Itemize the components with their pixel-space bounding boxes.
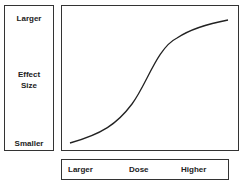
plot-area [61, 5, 239, 151]
y-axis-bottom-label: Smaller [5, 139, 53, 149]
y-axis-middle-label-2: Size [5, 81, 53, 91]
x-axis-label-box: Larger Dose Higher [61, 159, 229, 180]
dose-response-curve [62, 6, 238, 150]
x-axis-right-label: Higher [181, 165, 206, 175]
y-axis-top-label: Larger [5, 14, 53, 24]
x-axis-middle-label: Dose [129, 165, 149, 175]
x-axis-left-label: Larger [68, 165, 93, 175]
y-axis-middle-label-1: Effect [5, 70, 53, 80]
y-axis-label-box: Larger Effect Size Smaller [4, 5, 54, 151]
